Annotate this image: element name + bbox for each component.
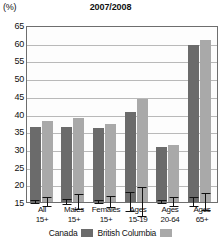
bar xyxy=(156,147,167,202)
chart-legend: Canada British Columbia xyxy=(0,228,221,238)
bar-group xyxy=(188,27,214,202)
x-axis-label: Ages65+ xyxy=(187,205,217,227)
error-bar-cap-top xyxy=(106,196,115,197)
bar xyxy=(137,99,148,202)
x-axis-label: Females15+ xyxy=(91,205,121,227)
y-axis-tick-label: 45 xyxy=(4,93,24,102)
y-axis-tick-label: 55 xyxy=(4,57,24,66)
y-axis-tick-label: 60 xyxy=(4,40,24,49)
legend-label-canada: Canada xyxy=(49,228,78,238)
bar-chart: (%) 2007/2008 6560555045403530252015 All… xyxy=(0,0,221,242)
bar xyxy=(200,40,211,202)
error-bar-cap-bottom xyxy=(157,203,166,204)
error-bar-cap-top xyxy=(138,187,147,188)
bar xyxy=(188,45,199,202)
chart-title: 2007/2008 xyxy=(0,2,221,12)
bar xyxy=(30,127,41,202)
bar xyxy=(73,118,84,202)
error-bar xyxy=(94,200,103,205)
y-axis-tick-label: 35 xyxy=(4,128,24,137)
bar xyxy=(93,128,104,202)
bar xyxy=(105,124,116,202)
error-bar-cap-top xyxy=(94,200,103,201)
x-axis-label: Ages15-19 xyxy=(123,205,153,227)
bar-group xyxy=(93,27,119,202)
y-axis-tick-label: 30 xyxy=(4,146,24,155)
error-bar-cap-top xyxy=(189,197,198,198)
error-bar-cap-bottom xyxy=(31,203,40,204)
error-bar-cap-top xyxy=(43,197,52,198)
bar xyxy=(168,145,179,202)
error-bar-cap-top xyxy=(201,193,210,194)
error-bar xyxy=(31,200,40,204)
error-bar-cap-top xyxy=(74,194,83,195)
y-axis-tick-label: 65 xyxy=(4,22,24,31)
bar xyxy=(61,127,72,202)
legend-label-british-columbia: British Columbia xyxy=(97,228,156,238)
y-axis-tick-label: 25 xyxy=(4,164,24,173)
plot-area xyxy=(26,26,218,203)
bar xyxy=(42,121,53,202)
bar-groups xyxy=(27,27,217,202)
error-bar-cap-top xyxy=(126,192,135,193)
legend-swatch-canada xyxy=(81,229,93,237)
y-axis-tick-label: 15 xyxy=(4,199,24,208)
x-axis-label: All15+ xyxy=(27,205,57,227)
bar-group xyxy=(61,27,87,202)
error-bar-cap-top xyxy=(31,200,40,201)
error-bar xyxy=(157,200,166,204)
error-bar-cap-top xyxy=(169,197,178,198)
x-axis-labels: All15+Males15+Females15+Ages15-19Ages20-… xyxy=(26,205,218,227)
error-bar-cap-top xyxy=(62,199,71,200)
y-axis-tick-label: 40 xyxy=(4,111,24,120)
legend-swatch-british-columbia xyxy=(160,229,172,237)
y-axis-tick-label: 20 xyxy=(4,181,24,190)
x-axis-label: Males15+ xyxy=(59,205,89,227)
error-bar-cap-top xyxy=(157,200,166,201)
bar xyxy=(125,112,136,202)
bar-group xyxy=(30,27,56,202)
y-axis-tick-label: 50 xyxy=(4,75,24,84)
bar-group xyxy=(156,27,182,202)
x-axis-label: Ages20-64 xyxy=(155,205,185,227)
bar-group xyxy=(125,27,151,202)
